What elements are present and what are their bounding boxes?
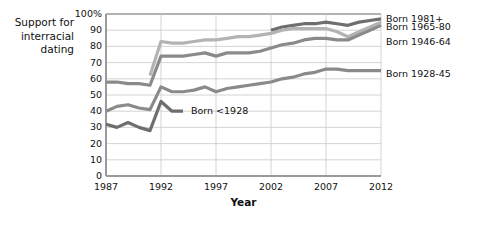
series-label-born-1928: Born <1928: [191, 105, 248, 116]
x-tick-label: 2012: [358, 181, 404, 192]
x-tick-label: 1987: [83, 181, 129, 192]
series-label-born-1946-64: Born 1946-64: [386, 36, 451, 47]
grid-lines: [106, 14, 381, 176]
x-axis-title: Year: [106, 196, 381, 208]
plot-area: [106, 14, 381, 176]
x-tick-label: 1992: [138, 181, 184, 192]
x-tick-label: 2007: [303, 181, 349, 192]
chart-figure: Support for interracial dating 010203040…: [0, 0, 479, 231]
x-tick-label: 1997: [193, 181, 239, 192]
plot-svg: [106, 14, 381, 176]
series-label-born-1928-45: Born 1928-45: [386, 68, 451, 79]
series-label-born-1965-80: Born 1965-80: [386, 21, 451, 32]
x-tick-label: 2002: [248, 181, 294, 192]
